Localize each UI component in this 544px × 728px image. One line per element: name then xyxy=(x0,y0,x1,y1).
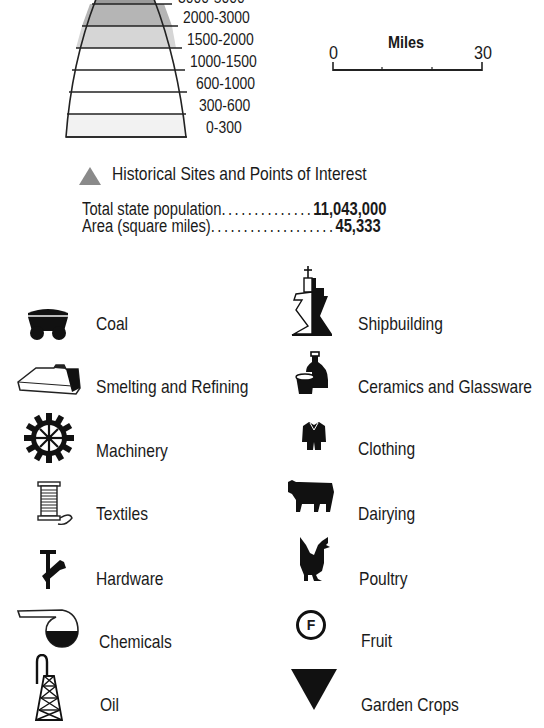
ship-icon xyxy=(290,264,336,340)
industry-label-machinery: Machinery xyxy=(96,440,168,462)
fruit-circle-f-icon: F xyxy=(296,610,326,640)
industry-label-textiles: Textiles xyxy=(96,503,148,525)
historical-site-triangle-icon xyxy=(78,166,102,186)
stat-area-value: 45,333 xyxy=(335,216,380,236)
elevation-label-3000-5000: 3000-5000 xyxy=(178,0,245,8)
industry-label-shipbuilding: Shipbuilding xyxy=(358,313,443,335)
gear-icon xyxy=(24,413,74,463)
elevation-label-600-1000: 600-1000 xyxy=(196,74,255,94)
industry-label-poultry: Poultry xyxy=(359,568,407,590)
industry-label-clothing: Clothing xyxy=(358,438,415,460)
elevation-label-1500-2000: 1500-2000 xyxy=(187,30,254,50)
fruit-icon-glyph: F xyxy=(307,617,316,633)
thread-spool-icon xyxy=(36,480,80,528)
scale-bar-line xyxy=(330,58,486,74)
industry-label-dairying: Dairying xyxy=(358,503,415,525)
industry-label-chemicals: Chemicals xyxy=(99,631,172,653)
industry-label-fruit: Fruit xyxy=(361,630,392,652)
historical-sites-label: Historical Sites and Points of Interest xyxy=(112,163,367,185)
elevation-label-1000-1500: 1000-1500 xyxy=(190,52,257,72)
cow-icon xyxy=(286,478,336,518)
elevation-bands-graphic xyxy=(60,0,190,144)
industry-label-ceramics-and-glassware: Ceramics and Glassware xyxy=(358,376,532,398)
vase-cup-icon xyxy=(294,350,332,398)
elevation-label-0-300: 0-300 xyxy=(206,118,242,138)
retort-flask-icon xyxy=(16,607,82,655)
stat-area-dots: ................... xyxy=(211,216,336,236)
industry-label-hardware: Hardware xyxy=(96,568,164,590)
industry-label-smelting-and-refining: Smelting and Refining xyxy=(96,376,248,398)
scale-title: Miles xyxy=(388,33,424,53)
oil-derrick-icon xyxy=(32,654,72,724)
rooster-icon xyxy=(298,535,332,585)
industry-label-coal: Coal xyxy=(96,313,128,335)
stat-area-row: Area (square miles)...................45… xyxy=(82,216,381,237)
smelter-icon xyxy=(16,362,84,398)
coal-cart-icon xyxy=(25,305,71,345)
elevation-label-300-600: 300-600 xyxy=(199,96,250,116)
inverted-triangle-icon xyxy=(290,668,338,712)
hammer-wrench-icon xyxy=(38,548,68,592)
jacket-icon xyxy=(300,420,328,452)
elevation-label-2000-3000: 2000-3000 xyxy=(183,8,250,28)
industry-label-oil: Oil xyxy=(100,694,119,716)
stat-area-label: Area (square miles) xyxy=(82,216,211,236)
industry-label-garden-crops: Garden Crops xyxy=(361,694,459,716)
